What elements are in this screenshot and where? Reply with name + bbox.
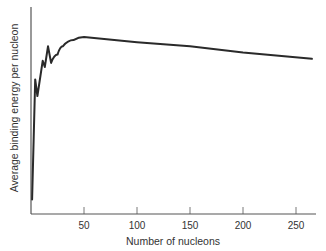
binding-energy-chart: 50100150200250 Number of nucleons Averag… [0,0,326,251]
x-tick-label: 250 [288,220,305,231]
x-tick-label: 150 [182,220,199,231]
x-tick-labels: 50100150200250 [78,220,304,231]
x-ticks [84,207,296,214]
axes [31,7,316,214]
y-axis-label: Average binding energy per nucleon [8,24,20,193]
x-tick-label: 50 [78,220,90,231]
binding-energy-curve [32,37,312,200]
x-tick-label: 100 [129,220,146,231]
x-axis-label: Number of nucleons [126,235,220,247]
x-tick-label: 200 [235,220,252,231]
